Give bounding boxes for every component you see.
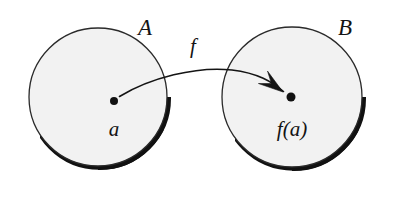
disk-body-domain (29, 28, 167, 166)
function-label-f: f (190, 34, 199, 58)
function-diagram-canvas: A B a f(a) f (0, 0, 399, 201)
set-label-B: B (338, 15, 352, 40)
function-diagram-figure: A B a f(a) f (0, 0, 399, 201)
element-dot-fa (287, 93, 296, 102)
element-label-a: a (109, 117, 120, 141)
set-label-A: A (136, 15, 153, 40)
element-dot-a (110, 97, 118, 105)
set-disk-domain (29, 28, 169, 168)
element-label-fa: f(a) (277, 117, 307, 141)
